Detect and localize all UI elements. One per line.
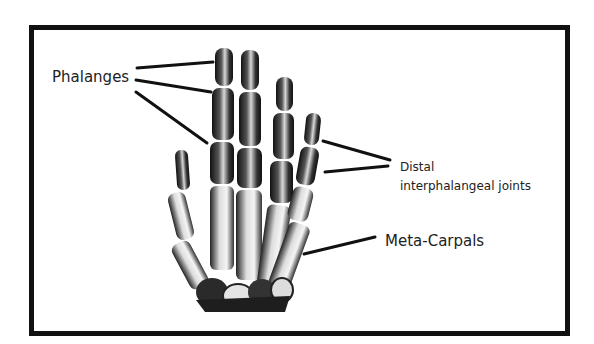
label-distal-line2: interphalangeal joints (400, 177, 531, 196)
phalanges-leader-1 (137, 62, 213, 68)
label-distal-interphalangeal-joints: Distal interphalangeal joints (400, 158, 531, 196)
carpal-bones (196, 278, 293, 312)
thumb-bones (166, 150, 210, 292)
phalanges-leader-3 (136, 92, 207, 143)
index-finger-bones (210, 48, 234, 270)
distal-joint-leader-2 (325, 166, 388, 172)
phalanges-leader-2 (136, 80, 211, 92)
label-phalanges: Phalanges (52, 68, 129, 86)
metacarpals-leader (304, 237, 375, 254)
label-metacarpals: Meta-Carpals (385, 232, 484, 250)
distal-joint-leader-1 (323, 141, 390, 160)
label-distal-line1: Distal (400, 158, 531, 177)
middle-finger-bones (236, 50, 262, 280)
